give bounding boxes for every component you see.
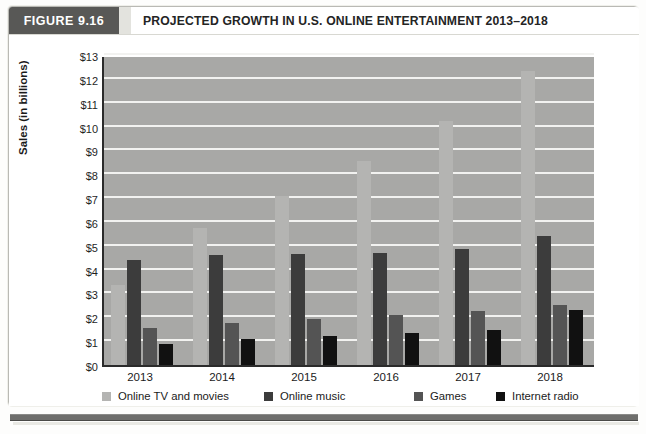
legend-swatch-icon [414, 392, 423, 401]
x-axis-label-2015: 2015 [265, 371, 343, 383]
bar [193, 228, 207, 365]
x-axis-label-2018: 2018 [511, 371, 589, 383]
bar [389, 315, 403, 365]
figure-number-badge: FIGURE 9.16 [9, 7, 119, 35]
legend-label: Online TV and movies [118, 390, 229, 402]
y-axis-tick-label: $10 [56, 123, 98, 135]
legend-item[interactable]: Online music [264, 387, 345, 405]
bar [127, 260, 141, 365]
bar [291, 254, 305, 365]
bar [225, 323, 239, 365]
y-axis-title: Sales (in billions) [17, 137, 29, 155]
bar [143, 328, 157, 365]
bar [209, 255, 223, 365]
figure-container: FIGURE 9.16 PROJECTED GROWTH IN U.S. ONL… [0, 0, 646, 434]
chart-legend: Online TV and moviesOnline musicGamesInt… [9, 387, 639, 409]
bar [373, 253, 387, 365]
x-axis-label-2017: 2017 [429, 371, 507, 383]
legend-swatch-icon [102, 392, 111, 401]
legend-item[interactable]: Online TV and movies [102, 387, 229, 405]
bar [521, 71, 535, 366]
bar [471, 311, 485, 365]
bar [241, 339, 255, 365]
y-axis-tick-label: $12 [56, 75, 98, 87]
bar [537, 236, 551, 365]
legend-item[interactable]: Internet radio [496, 387, 579, 405]
legend-label: Games [430, 390, 466, 402]
bar [275, 196, 289, 365]
legend-swatch-icon [264, 392, 273, 401]
bar [487, 330, 501, 365]
legend-swatch-icon [496, 392, 505, 401]
figure-title: PROJECTED GROWTH IN U.S. ONLINE ENTERTAI… [131, 7, 639, 35]
y-axis-tick-label: $6 [56, 218, 98, 230]
y-axis-tick-label: $2 [56, 313, 98, 325]
y-axis-tick-label: $0 [56, 361, 98, 373]
bar [323, 336, 337, 365]
bar [357, 161, 371, 365]
figure-header-divider [119, 7, 131, 35]
bar [307, 319, 321, 366]
y-axis-tick-labels: $0$1$2$3$4$5$6$7$8$9$10$11$12$13 [52, 57, 98, 367]
gridline [104, 53, 594, 55]
footer-rule-shadow [13, 422, 639, 425]
y-axis-tick-label: $11 [56, 99, 98, 111]
legend-label: Online music [280, 390, 345, 402]
bars-layer [104, 57, 594, 365]
y-axis-tick-label: $8 [56, 170, 98, 182]
x-axis-label-2016: 2016 [347, 371, 425, 383]
figure-frame: FIGURE 9.16 PROJECTED GROWTH IN U.S. ONL… [8, 6, 638, 406]
y-axis-tick-label: $9 [56, 146, 98, 158]
bar [111, 285, 125, 365]
x-axis-label-2013: 2013 [101, 371, 179, 383]
y-axis-tick-label: $3 [56, 289, 98, 301]
figure-header: FIGURE 9.16 PROJECTED GROWTH IN U.S. ONL… [9, 7, 639, 35]
chart-area: Sales (in billions) $0$1$2$3$4$5$6$7$8$9… [9, 35, 639, 406]
bar [159, 344, 173, 365]
bar [405, 333, 419, 365]
bar [553, 305, 567, 365]
y-axis-tick-label: $5 [56, 242, 98, 254]
bar [569, 310, 583, 365]
y-axis-tick-label: $13 [56, 51, 98, 63]
footer-rule [10, 414, 638, 421]
bar [439, 121, 453, 365]
x-axis-label-2014: 2014 [183, 371, 261, 383]
plot-area [102, 57, 594, 367]
y-axis-tick-label: $4 [56, 266, 98, 278]
y-axis-tick-label: $1 [56, 337, 98, 349]
bar [455, 249, 469, 365]
legend-label: Internet radio [512, 390, 579, 402]
y-axis-tick-label: $7 [56, 194, 98, 206]
legend-item[interactable]: Games [414, 387, 466, 405]
